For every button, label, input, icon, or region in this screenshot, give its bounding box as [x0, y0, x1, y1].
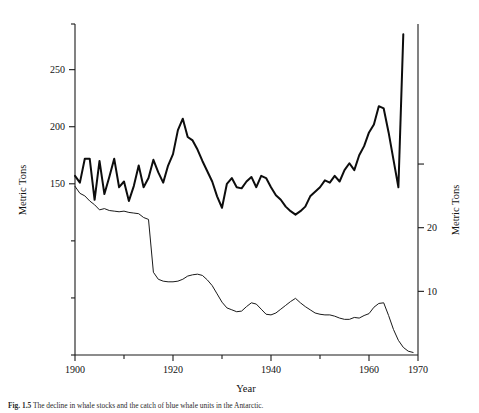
x-tick-label: 1960	[359, 364, 379, 375]
left-tick-label: 200	[50, 121, 65, 132]
chart-canvas: 150200250 1020 19001920194019601970 Year…	[0, 0, 479, 413]
right-tick-label: 20	[427, 222, 437, 233]
series-line-catch	[75, 34, 403, 214]
series-line-stock	[75, 186, 413, 352]
x-tick-label: 1970	[408, 364, 428, 375]
left-axis-ticks: 150200250	[50, 24, 75, 355]
x-tick-label: 1900	[65, 364, 85, 375]
y-axis-title-left: Metric Tons	[17, 165, 28, 216]
y-axis-title-right: Metric Tons	[450, 185, 461, 236]
figure-caption: Fig. 1.5 The decline in whale stocks and…	[8, 401, 473, 410]
left-tick-label: 250	[50, 64, 65, 75]
caption-label: Fig. 1.5	[8, 401, 31, 410]
right-axis-ticks: 1020	[418, 164, 437, 297]
right-tick-label: 10	[427, 286, 437, 297]
figure-page: 150200250 1020 19001920194019601970 Year…	[0, 0, 479, 413]
caption-text: The decline in whale stocks and the catc…	[33, 401, 263, 410]
x-tick-label: 1940	[261, 364, 281, 375]
data-series-group	[75, 34, 413, 352]
left-tick-label: 150	[50, 178, 65, 189]
x-tick-label: 1920	[163, 364, 183, 375]
x-axis-title: Year	[236, 383, 256, 394]
x-axis-ticks: 19001920194019601970	[65, 355, 428, 375]
